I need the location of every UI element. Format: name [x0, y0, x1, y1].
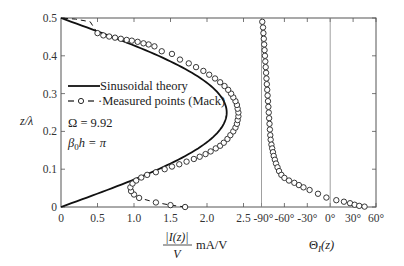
- measured-point: [193, 64, 198, 69]
- measured-point: [146, 42, 151, 47]
- chart: 00.10.20.30.40.500.51.01.52.02.5-90°-60°…: [0, 0, 404, 266]
- legend-theory-label: Sinusoidal theory: [100, 79, 189, 93]
- x-tick-label-phase: -90°: [254, 212, 274, 224]
- measured-point: [129, 38, 134, 43]
- measured-point: [153, 170, 158, 175]
- measured-point: [168, 202, 173, 207]
- phase-point: [357, 203, 362, 208]
- x-tick-label-magnitude: 2.5: [236, 212, 251, 224]
- measured-point: [118, 36, 123, 41]
- x-tick-label-phase: 0°: [325, 212, 336, 224]
- phase-point: [262, 47, 267, 52]
- measured-point: [177, 162, 182, 167]
- mag-numerator: |I(z)|: [165, 230, 188, 244]
- phase-point: [261, 30, 266, 35]
- plot-border: [61, 18, 376, 207]
- measured-point: [177, 57, 182, 62]
- magnitude-axis-title: |I(z)| V mA/V: [163, 230, 227, 261]
- measured-point: [186, 61, 191, 66]
- measured-point: [208, 149, 213, 154]
- mag-unit: mA/V: [196, 238, 227, 252]
- measured-point: [182, 204, 187, 209]
- measured-point: [162, 167, 167, 172]
- y-tick-label: 0.1: [43, 163, 58, 175]
- x-tick-label-magnitude: 1.5: [163, 212, 178, 224]
- phase-point: [267, 127, 272, 132]
- phase-point: [265, 87, 270, 92]
- phase-point: [263, 64, 268, 69]
- measured-point: [153, 200, 158, 205]
- measured-point: [135, 39, 140, 44]
- measured-point: [184, 159, 189, 164]
- legend-measured-circle: [78, 98, 83, 103]
- phase-point: [266, 104, 271, 109]
- measured-point: [141, 41, 146, 46]
- phase-point: [261, 42, 266, 47]
- y-tick-label: 0.3: [43, 88, 58, 100]
- omega-annotation: Ω = 9.92: [68, 116, 112, 130]
- y-tick-label: 0.4: [43, 50, 58, 62]
- beta-rest: h = π: [79, 136, 107, 150]
- phase-point: [264, 76, 269, 81]
- phase-point: [261, 36, 266, 41]
- phase-point: [265, 98, 270, 103]
- measured-point: [136, 195, 141, 200]
- measured-point: [217, 80, 222, 85]
- axis-ticks: [61, 18, 376, 207]
- x-tick-label-magnitude: 0: [58, 212, 64, 224]
- y-tick-label: 0.2: [43, 125, 58, 137]
- measured-point: [139, 175, 144, 180]
- theta-arg: (z): [321, 238, 334, 252]
- phase-point: [267, 121, 272, 126]
- phase-point: [266, 110, 271, 115]
- phase-point: [362, 204, 367, 209]
- measured-point: [212, 76, 217, 81]
- measured-point: [95, 30, 100, 35]
- phase-point: [262, 53, 267, 58]
- measured-point: [152, 44, 157, 49]
- phase-point: [307, 187, 312, 192]
- x-tick-label-phase: 60°: [368, 212, 385, 224]
- y-tick-label: 0: [51, 201, 57, 213]
- y-tick-label: 0.5: [43, 12, 58, 24]
- phase-point: [315, 191, 320, 196]
- mag-denominator: V: [173, 247, 182, 261]
- measured-point: [201, 68, 206, 73]
- measured-point: [133, 178, 138, 183]
- beta-annotation: β0h = π: [67, 136, 107, 152]
- measured-point: [144, 172, 149, 177]
- measured-point: [191, 156, 196, 161]
- measured-point: [206, 72, 211, 77]
- x-tick-label-phase: -60°: [274, 212, 294, 224]
- phase-point: [263, 59, 268, 64]
- measured-point: [101, 33, 106, 38]
- measured-point: [169, 51, 174, 56]
- measured-point: [112, 35, 117, 40]
- phase-point: [301, 185, 306, 190]
- phase-point: [265, 93, 270, 98]
- x-tick-label-phase: 30°: [345, 212, 362, 224]
- legend-measured-label: ·Measured points (Mack): [98, 94, 225, 108]
- x-tick-label-magnitude: 0.5: [90, 212, 105, 224]
- phase-point: [264, 81, 269, 86]
- measured-point: [169, 164, 174, 169]
- measured-point: [106, 34, 111, 39]
- phase-point: [324, 195, 329, 200]
- x-tick-label-magnitude: 1.0: [127, 212, 142, 224]
- phase-point: [341, 199, 346, 204]
- phase-point: [334, 197, 339, 202]
- theta-symbol: Θ: [309, 238, 318, 252]
- phase-point: [266, 115, 271, 120]
- x-tick-label-phase: -30°: [297, 212, 317, 224]
- phase-point: [286, 178, 291, 183]
- x-tick-label-magnitude: 2.0: [200, 212, 215, 224]
- plot-frame: [61, 18, 376, 207]
- measured-point: [197, 154, 202, 159]
- phase-point: [260, 25, 265, 30]
- phase-point: [263, 70, 268, 75]
- phase-point: [260, 19, 265, 24]
- y-axis-title: z/λ: [19, 114, 33, 128]
- legend: Sinusoidal theory ·Measured points (Mack…: [68, 79, 225, 108]
- measured-point: [203, 151, 208, 156]
- phase-axis-title: ΘI(z): [309, 238, 334, 254]
